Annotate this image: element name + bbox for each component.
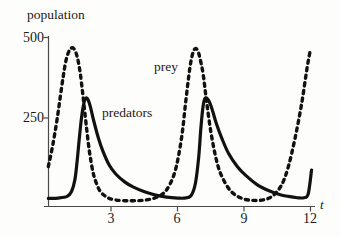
series-annotation-prey: prey: [154, 60, 178, 74]
series-curve-prey: [48, 48, 310, 201]
x-tick-label-12: 12: [298, 212, 322, 226]
series-annotation-predators: predators: [102, 106, 152, 120]
x-tick-label-3: 3: [99, 212, 123, 226]
y-tick-label-250: 250: [14, 111, 44, 125]
chart-series-group: [48, 48, 311, 201]
x-tick-label-6: 6: [165, 212, 189, 226]
predator-prey-chart: population t 500 250 3 6 9 12 prey preda…: [0, 0, 340, 237]
chart-axes: [44, 36, 316, 212]
chart-plot-area: [0, 0, 340, 237]
y-axis-title: population: [27, 8, 85, 22]
x-tick-label-9: 9: [232, 212, 256, 226]
y-tick-label-500: 500: [14, 31, 44, 45]
x-axis-title: t: [320, 198, 324, 211]
